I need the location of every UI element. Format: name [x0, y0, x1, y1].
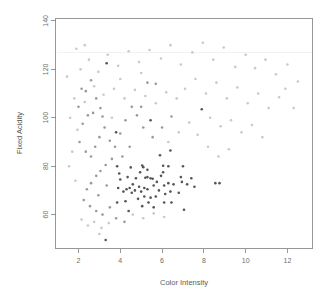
data-point — [143, 187, 146, 190]
data-point — [128, 187, 131, 190]
data-point — [117, 187, 120, 190]
data-point — [180, 63, 183, 66]
data-point — [194, 78, 197, 81]
data-point — [127, 210, 130, 213]
data-point — [193, 185, 196, 188]
x-axis-title: Color Intensity — [160, 278, 208, 287]
data-point — [140, 72, 143, 75]
data-point — [126, 176, 129, 179]
data-point — [172, 183, 175, 186]
data-point — [109, 206, 112, 209]
data-point — [123, 221, 126, 224]
data-point — [167, 165, 170, 168]
data-point — [214, 182, 217, 185]
data-point — [121, 155, 124, 158]
data-point — [278, 96, 281, 99]
data-point — [142, 217, 145, 220]
data-point — [146, 81, 149, 84]
data-point — [113, 87, 116, 90]
data-point — [140, 106, 143, 109]
data-point — [246, 102, 249, 105]
data-point — [240, 131, 243, 134]
data-point — [97, 70, 100, 73]
data-point — [138, 185, 141, 188]
data-point — [149, 119, 152, 122]
y-tick-label: 80 — [42, 162, 49, 170]
data-point — [132, 183, 135, 186]
data-point — [160, 57, 163, 60]
data-point — [109, 139, 112, 142]
data-point — [119, 78, 122, 81]
data-point — [123, 97, 126, 100]
data-point — [205, 92, 208, 95]
data-point — [82, 199, 85, 202]
data-point — [99, 170, 102, 173]
data-point — [169, 44, 172, 47]
data-point — [167, 141, 170, 144]
data-point — [182, 165, 185, 168]
plot-canvas: 24681012 6080100120140 Color Intensity F… — [0, 0, 330, 301]
data-point — [111, 158, 114, 161]
data-point — [219, 125, 222, 128]
data-point — [104, 239, 107, 242]
x-tick-label: 2 — [77, 257, 81, 264]
data-point — [251, 124, 254, 127]
data-point — [162, 164, 165, 167]
data-point — [158, 189, 161, 192]
y-axis-title: Fixed Acidity — [15, 112, 24, 154]
data-point — [94, 146, 97, 149]
data-point — [93, 85, 96, 88]
data-point — [124, 200, 127, 203]
data-point — [74, 179, 77, 182]
data-point — [139, 171, 142, 174]
data-point — [103, 126, 106, 129]
data-point — [218, 182, 221, 185]
data-point — [102, 93, 105, 96]
data-point — [144, 177, 147, 180]
data-point — [125, 188, 128, 191]
data-point — [141, 205, 144, 208]
data-point — [136, 114, 139, 117]
data-point — [116, 165, 119, 168]
data-point — [175, 97, 178, 100]
data-point — [151, 177, 154, 180]
data-point — [234, 66, 237, 69]
data-point — [180, 176, 183, 179]
data-point — [207, 146, 210, 149]
data-point — [184, 87, 187, 90]
data-point — [284, 87, 287, 90]
data-point — [163, 184, 166, 187]
data-point — [128, 146, 131, 149]
data-point — [212, 58, 215, 61]
data-point — [154, 102, 157, 105]
data-point — [77, 106, 80, 109]
data-point — [215, 81, 218, 84]
data-point — [90, 79, 93, 82]
data-point — [267, 107, 270, 110]
data-point — [115, 131, 118, 134]
data-point — [162, 171, 165, 174]
data-point — [226, 97, 229, 100]
data-point — [188, 121, 191, 124]
data-point — [165, 91, 168, 94]
data-point — [164, 193, 167, 196]
data-point — [95, 175, 98, 178]
data-point — [85, 90, 88, 93]
data-point — [130, 106, 133, 109]
y-tick-label: 120 — [42, 63, 49, 75]
data-point — [191, 51, 194, 54]
data-point — [177, 192, 180, 195]
data-point — [154, 195, 157, 198]
data-point — [105, 62, 108, 65]
data-point — [144, 95, 147, 98]
data-point — [101, 213, 104, 216]
data-point — [76, 129, 79, 132]
data-point — [80, 218, 83, 221]
data-point — [244, 54, 247, 57]
data-point — [129, 166, 132, 169]
data-point — [217, 155, 220, 158]
data-point — [80, 87, 83, 90]
data-point — [222, 46, 225, 49]
x-tick-label: 10 — [242, 257, 250, 264]
x-tick-label: 8 — [202, 257, 206, 264]
